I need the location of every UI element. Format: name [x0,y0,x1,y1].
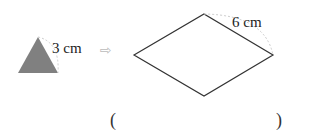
answer-close-paren: ) [276,110,282,131]
right-arrow-icon: ⇨ [100,42,112,58]
rhombus-side-label: 6 cm [232,14,262,31]
answer-open-paren: ( [110,110,116,131]
answer-blank[interactable] [122,112,272,132]
triangle-side-label: 3 cm [52,40,82,57]
